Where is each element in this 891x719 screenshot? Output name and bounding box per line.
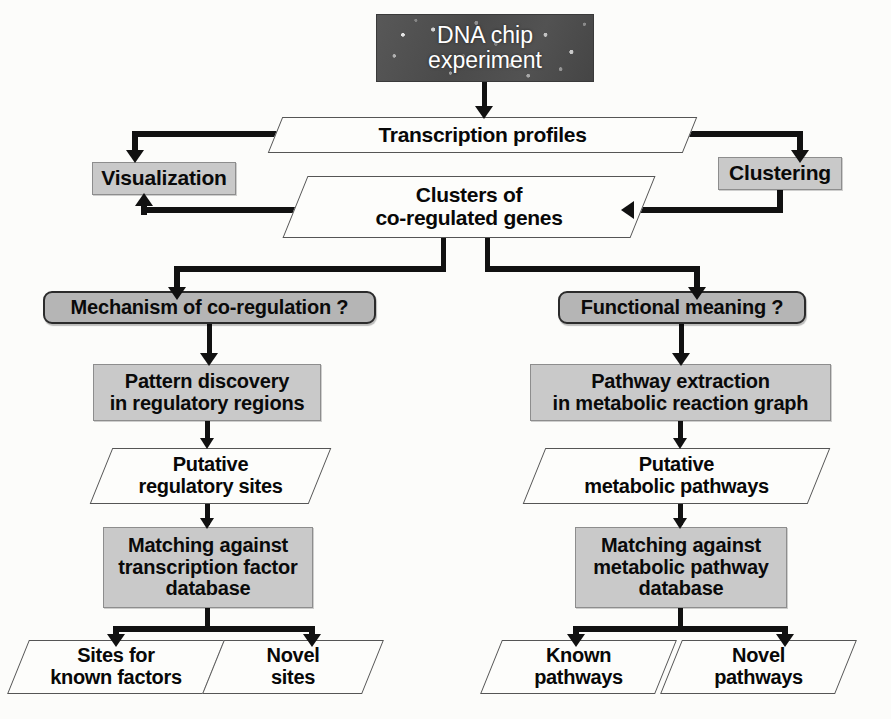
node-putative-metabolic-pathways: Putative metabolic pathways: [534, 448, 819, 504]
node-clustering: Clustering: [718, 157, 842, 190]
node-matching-pathway-label: Matching against metabolic pathway datab…: [593, 535, 769, 600]
node-clusters-of-coregulated-genes: Clusters of co-regulated genes: [295, 176, 643, 238]
node-matching-transcription-factor-database: Matching against transcription factor da…: [103, 527, 313, 608]
arrowhead-putative-sites-to-matching: [200, 518, 214, 529]
node-mechanism-question: Mechanism of co-regulation ?: [43, 291, 376, 324]
node-pattern-discovery: Pattern discovery in regulatory regions: [93, 364, 321, 421]
node-novel-pathways: Novel pathways: [671, 640, 846, 694]
node-sites-known-label: Sites for known factors: [18, 640, 214, 694]
arrowhead-to-novel-sites: [303, 634, 321, 647]
connector-branch-left-h: [174, 266, 446, 272]
connector-clustering-to-clusters-h: [633, 207, 783, 213]
node-putative-pathways-label: Putative metabolic pathways: [534, 448, 819, 504]
arrowhead-functional-to-pathway: [672, 353, 690, 366]
arrowhead-profiles-to-clustering: [791, 150, 809, 163]
node-transcription-profiles: Transcription profiles: [275, 117, 690, 153]
node-pathway-extraction: Pathway extraction in metabolic reaction…: [530, 364, 831, 421]
node-novel-pathways-label: Novel pathways: [671, 640, 846, 694]
arrowhead-putative-pathways-to-matching: [673, 518, 687, 529]
arrowhead-chip-to-profiles: [475, 106, 493, 119]
connector-matching-pathway-h: [573, 626, 788, 632]
node-pathway-extraction-label: Pathway extraction in metabolic reaction…: [553, 371, 809, 414]
node-known-pathways: Known pathways: [491, 640, 666, 694]
arrowhead-pathway-to-putative-pathways: [673, 438, 687, 449]
arrowhead-to-functional-question: [688, 287, 706, 300]
node-transcription-profiles-label: Transcription profiles: [275, 117, 690, 153]
node-matching-metabolic-pathway-database: Matching against metabolic pathway datab…: [575, 527, 787, 608]
flowchart-canvas: DNA chip experiment Transcription profil…: [0, 0, 891, 719]
node-sites-for-known-factors: Sites for known factors: [18, 640, 214, 694]
arrowhead-clustering-to-clusters: [621, 201, 634, 219]
node-visualization: Visualization: [92, 162, 236, 195]
connector-chip-to-profiles: [482, 82, 487, 109]
node-pattern-discovery-label: Pattern discovery in regulatory regions: [110, 371, 305, 414]
connector-clusters-to-visualization-h: [141, 207, 317, 213]
node-visualization-label: Visualization: [101, 167, 226, 190]
node-putative-regulatory-sites: Putative regulatory sites: [101, 448, 320, 504]
arrowhead-pattern-to-putative-sites: [200, 438, 214, 449]
node-functional-question-label: Functional meaning ?: [581, 297, 784, 319]
arrowhead-to-known-pathways: [567, 634, 585, 647]
node-clustering-label: Clustering: [729, 162, 831, 185]
arrowhead-to-novel-pathways: [776, 634, 794, 647]
node-functional-question: Functional meaning ?: [558, 291, 806, 324]
arrowhead-clusters-to-visualization: [135, 193, 153, 206]
connector-branch-right-h: [485, 266, 700, 272]
node-dna-chip-experiment-label: DNA chip experiment: [428, 23, 542, 73]
node-putative-sites-label: Putative regulatory sites: [101, 448, 320, 504]
node-novel-sites: Novel sites: [213, 640, 373, 694]
arrowhead-to-sites-known-factors: [107, 634, 125, 647]
connector-clusters-to-visualization-v: [141, 205, 147, 215]
node-matching-tf-label: Matching against transcription factor da…: [118, 535, 297, 600]
node-novel-sites-label: Novel sites: [213, 640, 373, 694]
arrowhead-mechanism-to-pattern: [200, 353, 218, 366]
connector-matching-tf-h: [113, 626, 315, 632]
arrowhead-profiles-to-visualization: [126, 150, 144, 163]
node-dna-chip-experiment: DNA chip experiment: [376, 14, 594, 82]
node-clusters-label: Clusters of co-regulated genes: [295, 176, 643, 238]
arrowhead-to-mechanism-question: [168, 287, 186, 300]
node-known-pathways-label: Known pathways: [491, 640, 666, 694]
node-mechanism-question-label: Mechanism of co-regulation ?: [71, 297, 349, 319]
